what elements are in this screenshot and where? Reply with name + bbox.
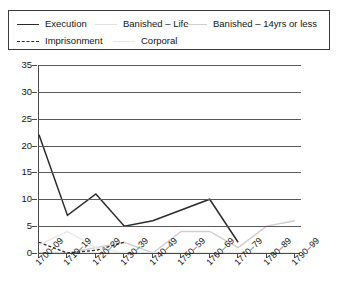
- legend-item-banished-14yrs: Banished – 14yrs or less: [185, 19, 317, 29]
- y-axis-tick: [32, 146, 37, 147]
- y-axis-tick-label: 25: [21, 114, 32, 124]
- chart-legend: Execution Banished – Life Banished – 14y…: [8, 10, 330, 50]
- gridline: [39, 172, 301, 173]
- y-axis-tick-label: 30: [21, 87, 32, 97]
- legend-item-corporal: Corporal: [113, 36, 177, 46]
- y-axis-tick-label: 10: [21, 195, 32, 205]
- gridline: [39, 199, 301, 200]
- gridline: [39, 146, 301, 147]
- gridline: [39, 119, 301, 120]
- gridline: [39, 226, 301, 227]
- legend-label-corporal: Corporal: [141, 36, 177, 46]
- y-axis-tick: [32, 65, 37, 66]
- legend-item-imprisonment: Imprisonment: [17, 36, 103, 46]
- legend-line-imprisonment-icon: [17, 41, 39, 42]
- legend-item-banished-life-wrap: Banished – Life: [95, 16, 189, 32]
- legend-label-imprisonment: Imprisonment: [45, 36, 103, 46]
- x-axis-tick-labels: 1700–091710–191720–291730–391740–491750–…: [0, 259, 339, 308]
- series-lines: [39, 65, 301, 253]
- y-axis-tick-labels: 05101520253035: [0, 55, 36, 255]
- y-axis-tick-label: 15: [21, 168, 32, 178]
- chart-plot-wrapper: 05101520253035 1700–091710–191720–291730…: [0, 55, 339, 308]
- y-axis-tick: [32, 92, 37, 93]
- y-axis-tick: [32, 172, 37, 173]
- legend-line-banished-life-icon: [95, 24, 117, 25]
- legend-item-execution: Execution: [17, 19, 87, 29]
- legend-label-execution: Execution: [45, 19, 87, 29]
- legend-line-corporal-icon: [113, 41, 135, 42]
- y-axis-tick-label: 20: [21, 141, 32, 151]
- y-axis-tick: [32, 119, 37, 120]
- plot-area: [38, 65, 300, 253]
- y-axis-tick: [32, 199, 37, 200]
- y-axis-tick: [32, 253, 37, 254]
- legend-item-corporal-wrap: Corporal: [113, 33, 177, 49]
- legend-label-banished-life: Banished – Life: [123, 19, 189, 29]
- legend-row-2: Imprisonment: [17, 33, 103, 49]
- gridline: [39, 92, 301, 93]
- legend-row-1: Execution: [17, 16, 87, 32]
- gridline: [39, 65, 301, 66]
- y-axis-tick: [32, 226, 37, 227]
- y-axis-tick-label: 35: [21, 60, 32, 70]
- legend-item-banished-14yrs-wrap: Banished – 14yrs or less: [185, 16, 317, 32]
- legend-item-banished-life: Banished – Life: [95, 19, 189, 29]
- legend-label-banished-14yrs: Banished – 14yrs or less: [213, 19, 317, 29]
- legend-line-execution-icon: [17, 24, 39, 25]
- legend-line-banished-14yrs-icon: [185, 24, 207, 25]
